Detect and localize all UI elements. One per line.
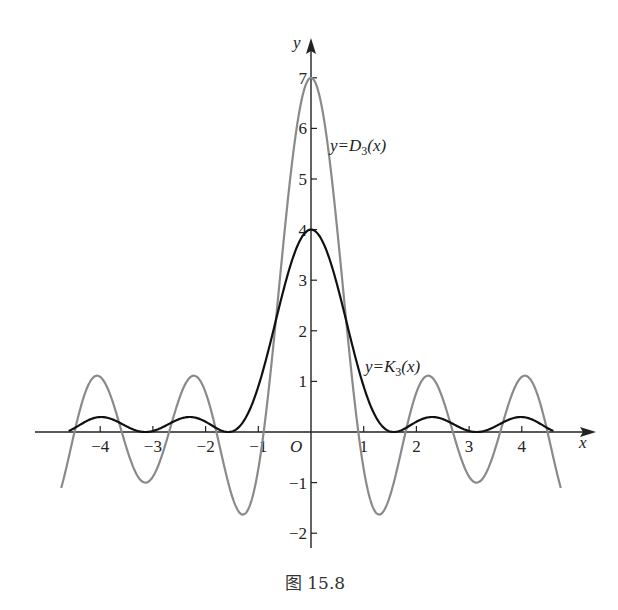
chart: −4−3−2−11234−2−11234567 x y O y=D3(x) y=… <box>0 0 618 610</box>
x-axis-label: x <box>578 433 587 452</box>
y-tick-label: 6 <box>299 119 308 138</box>
x-tick-label: 2 <box>412 437 421 456</box>
k3-label: y=K3(x) <box>363 357 421 379</box>
x-tick-label: 4 <box>518 437 527 456</box>
x-tick-label: −1 <box>249 437 267 456</box>
d3-label: y=D3(x) <box>328 136 387 158</box>
y-tick-label: 3 <box>299 271 308 290</box>
x-tick-label: 3 <box>465 437 474 456</box>
y-tick-label: −2 <box>289 524 307 543</box>
origin-label: O <box>290 437 302 456</box>
x-tick-label: −2 <box>197 437 215 456</box>
x-tick-label: −3 <box>144 437 162 456</box>
x-tick-label: −4 <box>91 437 110 456</box>
y-axis-label: y <box>291 33 301 52</box>
y-tick-label: 5 <box>299 170 308 189</box>
y-tick-label: 2 <box>299 322 308 341</box>
y-tick-label: 1 <box>299 372 308 391</box>
y-tick-label: −1 <box>289 474 307 493</box>
figure-caption: 图 15.8 <box>285 573 345 593</box>
